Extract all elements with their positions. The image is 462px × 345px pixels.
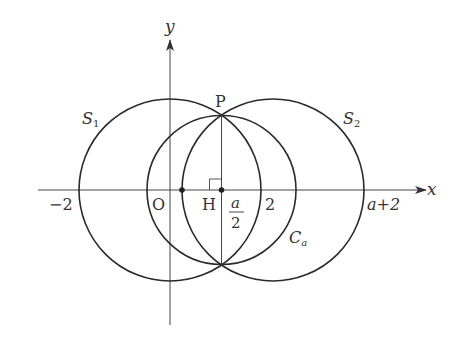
tick-a-half-denominator: 2: [231, 214, 241, 232]
tick-two: 2: [265, 195, 275, 214]
point-h: [219, 187, 225, 193]
tick-a-half-numerator: a: [231, 194, 240, 212]
point-h-label: H: [202, 195, 216, 214]
origin-label: O: [152, 195, 165, 214]
y-axis-label: y: [164, 16, 175, 36]
ca-label: Ca: [289, 228, 307, 248]
circles-diagram: y x P S1 S2 Ca −2 O H a 2 2 a+2: [0, 0, 462, 345]
tick-a-plus-two: a+2: [367, 195, 400, 214]
s1-label: S1: [82, 109, 99, 129]
point-p-label: P: [215, 92, 226, 111]
point-s2-left: [179, 187, 185, 193]
x-axis-label: x: [427, 179, 437, 199]
s2-label: S2: [343, 109, 360, 129]
tick-neg-two: −2: [49, 195, 73, 214]
